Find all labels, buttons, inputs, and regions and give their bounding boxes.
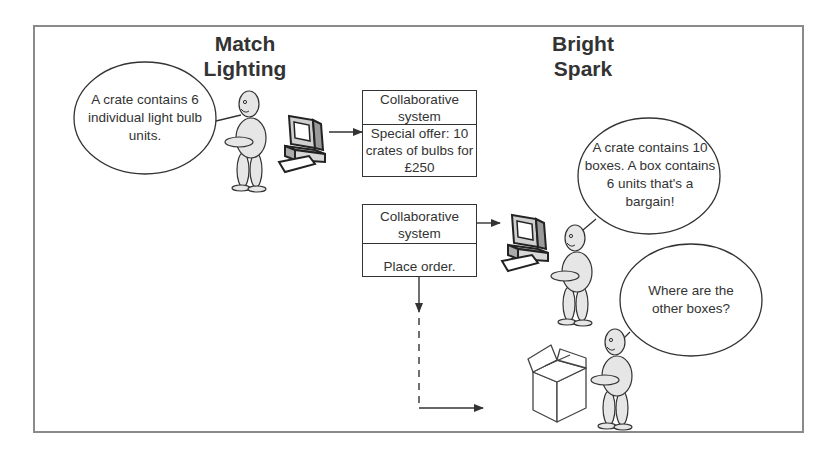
title-match-lighting: Match Lighting [185,31,305,81]
computer-icon [279,116,325,172]
system-box-body: Special offer: 10 crates of bulbs for £2… [363,125,476,176]
speech-bubble-3-text: Where are the other boxes? [632,280,750,320]
title-line-2: Spark [523,56,643,81]
title-line-1: Match [185,31,305,56]
system-box-header: Collaborative system [363,91,476,125]
speech-bubble-2-text: A crate contains 10 boxes. A box contain… [582,137,718,213]
title-line-1: Bright [523,31,643,56]
speech-bubble-1-text: A crate contains 6 individual light bulb… [80,82,210,154]
person-icon [591,329,632,430]
person-icon [225,91,266,192]
title-line-2: Lighting [185,56,305,81]
person-icon [551,225,592,326]
system-box-body: Place order. [363,244,476,275]
system-box-header: Collaborative system [363,205,476,244]
cardboard-box-icon [528,345,586,422]
speech-bubble-1-tail [216,115,241,121]
collaborative-system-box-order: Collaborative system Place order. [362,204,477,277]
collaborative-system-box-offer: Collaborative system Special offer: 10 c… [362,90,477,177]
speech-bubble-2-tail [583,219,596,230]
computer-icon [502,215,548,271]
title-bright-spark: Bright Spark [523,31,643,81]
